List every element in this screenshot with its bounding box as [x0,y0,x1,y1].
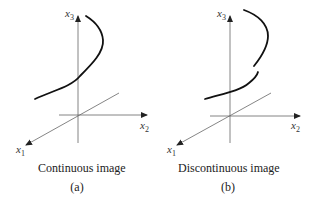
panel-label-a: (a) [62,180,92,195]
panel-label-b: (b) [213,180,243,195]
x1-axis [177,93,271,145]
discontinuous-curve-upper [244,10,268,66]
caption-b: Discontinuous image [178,161,278,176]
x1-label: x1 [15,143,25,158]
x3-label: x3 [216,7,226,22]
x1-label: x1 [166,143,176,158]
x3-label: x3 [64,7,74,22]
panel-a: x3 x2 x1 [15,7,149,158]
x1-axis [26,93,119,145]
caption-a: Continuous image [38,161,118,176]
continuous-curve [35,16,103,99]
x2-label: x2 [139,119,149,134]
discontinuous-curve-lower [205,72,258,99]
panel-b: x3 x2 x1 [166,7,300,158]
x2-label: x2 [290,119,300,134]
